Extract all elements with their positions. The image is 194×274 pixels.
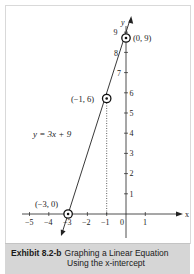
caption-exhibit-label: Exhibit 8.2-b xyxy=(11,248,62,258)
y-ticks: 1 2 3 4 5 6 6 7 8 9 xyxy=(114,28,134,199)
x-tick-label: −2 xyxy=(82,218,91,227)
equation-label: y = 3x + 9 xyxy=(32,129,72,139)
y-axis-label: y xyxy=(120,18,125,27)
y-tick-label: 1 xyxy=(130,190,134,199)
x-tick-label: 1 xyxy=(143,218,147,227)
caption-title: Graphing a Linear Equation xyxy=(65,248,169,258)
y-tick-label: 7 xyxy=(117,69,121,78)
x-tick-label: −4 xyxy=(44,218,53,227)
x-tick-label: 0 xyxy=(120,218,124,227)
y-tick-label: 9 xyxy=(114,28,118,37)
y-tick-label: 4 xyxy=(130,129,134,138)
caption-line-1: Exhibit 8.2-bGraphing a Linear Equation xyxy=(11,248,169,258)
line-arrow-up-icon xyxy=(128,16,133,24)
point-x-intercept: (−3, 0) xyxy=(35,199,72,218)
y-tick-label: 3 xyxy=(130,149,134,158)
point-y-intercept: (0, 9) xyxy=(122,33,152,43)
point-mid: (−1, 6) xyxy=(71,94,111,104)
figure-caption: Exhibit 8.2-bGraphing a Linear Equation … xyxy=(5,243,190,274)
caption-title-line-2: Using the x-intercept xyxy=(67,258,145,268)
point-label: (−3, 0) xyxy=(35,199,58,209)
x-tick-label: −5 xyxy=(25,218,34,227)
x-axis-arrow-icon xyxy=(176,212,183,217)
x-axis-label: x xyxy=(185,210,189,219)
line-y-3x-plus-9 xyxy=(61,16,133,236)
y-tick-label: 6 xyxy=(130,89,134,98)
line-arrow-down-icon xyxy=(61,230,66,237)
point-label: (−1, 6) xyxy=(71,94,94,104)
point-label: (0, 9) xyxy=(133,33,152,43)
y-tick-label: 5 xyxy=(130,109,134,118)
x-tick-label: −1 xyxy=(101,218,110,227)
y-tick-label: 8 xyxy=(114,49,118,58)
y-tick-label: 2 xyxy=(130,169,134,178)
